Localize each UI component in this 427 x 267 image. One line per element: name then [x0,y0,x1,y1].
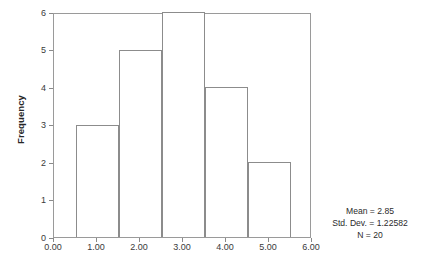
y-axis-tick-label: 6 [41,9,49,18]
stats-n: N = 20 [318,230,422,242]
stats-std-dev: Std. Dev. = 1.22582 [318,218,422,230]
histogram-bar [119,50,162,238]
y-axis-tick-label: 3 [41,121,49,130]
y-axis-tick-label: 4 [41,84,49,93]
histogram-figure: Frequency 0123456 0.001.002.003.004.005.… [0,0,427,267]
x-axis-tick-label: 5.00 [259,243,277,252]
x-axis: 0.001.002.003.004.005.006.00 [53,238,311,264]
x-axis-tick-label: 1.00 [87,243,105,252]
y-axis-title: Frequency [8,0,32,238]
histogram-bar [76,125,119,238]
y-axis-title-label: Frequency [15,95,26,144]
plot-area [54,14,310,237]
x-axis-tick-label: 2.00 [130,243,148,252]
histogram-bar [248,162,291,237]
stats-mean: Mean = 2.85 [318,206,422,218]
x-axis-tick-label: 6.00 [302,243,320,252]
x-axis-tick-label: 0.00 [44,243,62,252]
histogram-bar [162,12,205,237]
y-axis-tick-label: 2 [41,159,49,168]
plot-frame [53,13,311,238]
y-axis-tick-label: 5 [41,46,49,55]
x-axis-tick-label: 3.00 [173,243,191,252]
histogram-bar [205,87,248,237]
stats-annotation: Mean = 2.85 Std. Dev. = 1.22582 N = 20 [318,206,422,242]
y-axis-tick-label: 1 [41,196,49,205]
y-axis: 0123456 [30,13,53,238]
x-axis-tick-label: 4.00 [216,243,234,252]
